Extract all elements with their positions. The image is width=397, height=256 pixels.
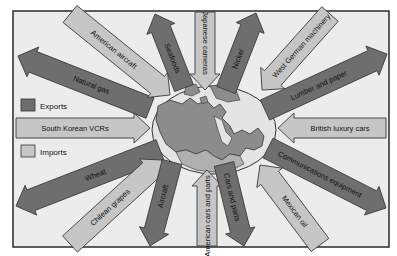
legend-exports-swatch: [21, 99, 35, 111]
arrow-label: South Korean VCRs: [41, 124, 109, 133]
arrow-label: British luxury cars: [310, 124, 369, 133]
arrow-label: American cars and parts: [203, 175, 212, 256]
arrow-label: Japanese cameras: [201, 11, 210, 75]
trade-diagram: Natural gasAmerican aircraftSeafoodsJapa…: [0, 0, 397, 256]
diagram-canvas: Natural gasAmerican aircraftSeafoodsJapa…: [0, 0, 397, 256]
legend-imports-label: Imports: [40, 148, 67, 157]
legend-imports-swatch: [21, 145, 35, 157]
legend-exports-label: Exports: [40, 102, 67, 111]
